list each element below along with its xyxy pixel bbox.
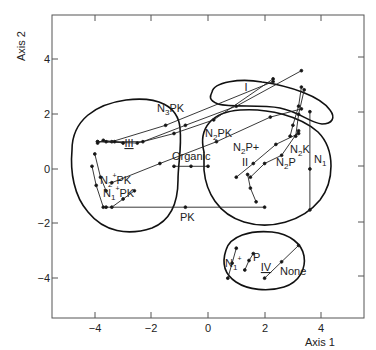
data-point <box>235 105 238 108</box>
data-point <box>212 119 215 122</box>
data-point <box>297 129 300 132</box>
data-point <box>95 184 98 187</box>
data-point <box>226 277 229 280</box>
data-point <box>275 143 278 146</box>
data-point <box>184 124 187 127</box>
label-n1pk: N1+PK <box>103 185 135 202</box>
data-point <box>300 86 303 89</box>
data-point <box>263 206 266 209</box>
data-point <box>105 206 108 209</box>
data-point <box>249 176 252 179</box>
data-point <box>303 88 306 91</box>
data-point <box>190 165 193 168</box>
data-point <box>309 168 312 171</box>
data-point <box>173 132 176 135</box>
data-point <box>102 139 105 142</box>
y-tick-label: 2 <box>44 108 50 120</box>
data-point <box>272 78 275 81</box>
data-point <box>246 173 249 176</box>
y-axis-title: Axis 2 <box>15 31 27 61</box>
data-point <box>159 162 162 165</box>
data-point <box>289 135 292 138</box>
x-tick-label: −2 <box>145 322 158 334</box>
data-point <box>309 110 312 113</box>
data-point <box>93 153 96 156</box>
x-tick-label: 2 <box>262 322 268 334</box>
y-tick-label: −2 <box>37 217 50 229</box>
group-label-I: I <box>244 81 247 93</box>
x-tick-label: 0 <box>205 322 211 334</box>
data-point <box>235 176 238 179</box>
data-point <box>300 69 303 72</box>
data-point <box>269 116 272 119</box>
trajectory-n2pk-long <box>112 109 302 183</box>
x-tick-labels: −4 −2 0 2 4 <box>89 322 324 334</box>
data-point <box>91 165 94 168</box>
trajectory-n2pk-left-b <box>92 166 103 207</box>
data-point <box>309 209 312 212</box>
data-point <box>249 187 252 190</box>
group-label-II: II <box>242 156 248 168</box>
label-n2p: N2P <box>276 156 296 171</box>
data-point <box>142 140 145 143</box>
data-point <box>252 162 255 165</box>
data-point <box>255 200 258 203</box>
data-point <box>263 277 266 280</box>
data-point <box>113 140 116 143</box>
data-point <box>235 247 238 250</box>
y-tick-labels: 4 2 0 −2 −4 <box>37 53 50 284</box>
data-point <box>96 142 99 145</box>
data-point <box>207 165 210 168</box>
y-tick-label: 0 <box>44 163 50 175</box>
data-point <box>297 113 300 116</box>
x-tick-label: −4 <box>89 322 102 334</box>
label-n2p-plus: N2P+ <box>233 141 259 156</box>
label-organic: Organic <box>172 150 211 162</box>
label-n2pk: N2PK <box>205 127 233 142</box>
envelope-III <box>72 99 181 232</box>
x-tick-label: 4 <box>318 322 324 334</box>
data-point <box>164 124 167 127</box>
data-point <box>292 124 295 127</box>
y-tick-label: −4 <box>37 272 50 284</box>
data-point <box>248 259 251 262</box>
label-p-iv: P <box>253 251 260 263</box>
label-n1-right: N1 <box>314 153 327 168</box>
group-label-IV: IV <box>261 261 272 273</box>
data-point <box>173 165 176 168</box>
group-label-III: III <box>124 137 133 149</box>
label-n3pk: N3PK <box>157 102 185 117</box>
x-axis-title: Axis 1 <box>305 336 335 348</box>
y-tick-label: 4 <box>44 53 50 65</box>
label-pk: PK <box>180 211 195 223</box>
data-point <box>263 162 266 165</box>
data-point <box>297 244 300 247</box>
label-none: None <box>280 265 306 277</box>
data-point <box>297 105 300 108</box>
data-point <box>280 260 283 263</box>
ordination-plot: −4 −2 0 2 4 4 2 0 −2 −4 Axis 1 Axis 2 I … <box>0 0 376 350</box>
data-point <box>243 269 246 272</box>
data-point <box>184 206 187 209</box>
